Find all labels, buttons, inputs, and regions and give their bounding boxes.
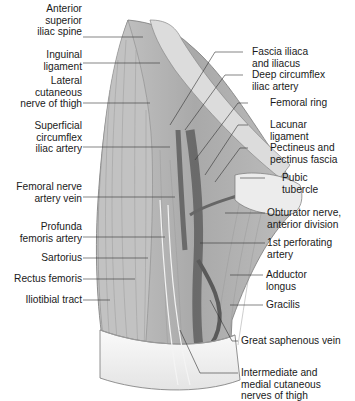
label-pectineus: Pectineus and pectinus fascia — [270, 142, 337, 165]
label-femoral-ring: Femoral ring — [270, 97, 327, 109]
label-obturator-nerve: Obturator nerve, anterior division — [267, 207, 341, 230]
label-cutaneous-nerves-of-thigh: Intermediate and medial cutaneous nerves… — [241, 367, 321, 401]
label-lacunar-ligament: Lacunar ligament — [270, 119, 309, 142]
anatomy-figure: Anterior superior iliac spine Inguinal l… — [0, 0, 355, 401]
label-gracilis: Gracilis — [266, 299, 300, 311]
label-profunda-femoris-artery: Profunda femoris artery — [20, 221, 82, 244]
label-rectus-femoris: Rectus femoris — [14, 273, 82, 285]
label-lateral-cutaneous-nerve: Lateral cutaneous nerve of thigh — [20, 75, 82, 110]
label-superficial-circumflex-iliac-artery: Superficial circumflex iliac artery — [34, 120, 82, 155]
label-fascia-iliaca: Fascia iliaca and iliacus — [252, 46, 308, 69]
label-iliotibial-tract: Iliotibial tract — [25, 294, 82, 306]
label-asis: Anterior superior iliac spine — [37, 3, 82, 38]
label-sartorius: Sartorius — [41, 252, 82, 264]
label-pubic-tubercle: Pubic tubercle — [282, 172, 318, 195]
label-great-saphenous-vein: Great saphenous vein — [241, 335, 341, 347]
label-1st-perforating-artery: 1st perforating artery — [267, 237, 332, 260]
label-femoral-nerve-artery-vein: Femoral nerve artery vein — [16, 181, 82, 204]
label-inguinal-ligament: Inguinal ligament — [43, 49, 82, 72]
label-deep-circumflex-iliac-artery: Deep circumflex iliac artery — [252, 69, 325, 92]
label-adductor-longus: Adductor longus — [266, 269, 307, 292]
